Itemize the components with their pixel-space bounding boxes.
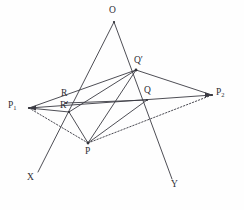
- vertex-dot-qprime: [135, 69, 138, 72]
- label-p2-subscript: 2: [221, 91, 224, 98]
- O-to-X-ray: [38, 22, 114, 172]
- Rprime-to-P: [69, 112, 88, 143]
- label-p1-subscript: 1: [13, 104, 16, 111]
- P1-to-P-dotted: [29, 108, 88, 143]
- Qprime-to-P: [88, 70, 136, 143]
- label-point-r-prime: R′: [60, 101, 68, 111]
- label-point-p2: P2: [216, 88, 225, 98]
- Q-to-P: [88, 100, 147, 143]
- geometry-figure: O Q′ Q R R′ P P1 P2 X Y: [0, 0, 244, 210]
- label-point-y: Y: [171, 180, 178, 190]
- vertex-dot-p: [87, 142, 90, 145]
- solid-lines-group: [29, 22, 212, 179]
- geometry-canvas: [0, 0, 244, 210]
- label-point-q: Q: [144, 86, 151, 96]
- vertex-dot-o: [113, 21, 115, 23]
- label-point-r: R: [61, 89, 67, 99]
- vertex-dot-q: [146, 99, 148, 101]
- label-point-x: X: [27, 173, 34, 183]
- label-point-p1: P1: [8, 101, 17, 111]
- label-point-p: P: [85, 147, 90, 157]
- label-point-q-prime: Q′: [134, 56, 143, 66]
- label-point-o: O: [109, 6, 116, 16]
- vertex-dot-rprime: [68, 111, 70, 113]
